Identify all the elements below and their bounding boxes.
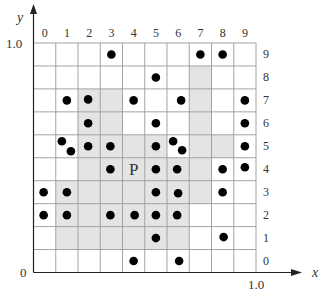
data-point <box>130 211 139 220</box>
shaded-cell <box>78 204 100 227</box>
data-point <box>218 165 227 174</box>
data-point <box>106 165 115 174</box>
data-point <box>177 96 186 105</box>
row-label: 4 <box>263 162 269 176</box>
shaded-cell <box>56 227 78 250</box>
column-label: 0 <box>42 26 48 40</box>
row-label: 5 <box>263 139 269 153</box>
grid-diagram: y x 1.0 1.0 0 01234567890123456789P <box>0 0 332 299</box>
column-label: 7 <box>197 26 203 40</box>
shaded-cell <box>100 89 122 112</box>
data-point <box>129 96 138 105</box>
data-point <box>169 137 178 146</box>
shaded-cell <box>78 181 100 204</box>
column-label: 1 <box>64 26 70 40</box>
shaded-cell <box>100 181 122 204</box>
data-point <box>241 119 250 128</box>
row-label: 7 <box>263 93 269 107</box>
shaded-cell <box>189 158 211 181</box>
data-point <box>152 234 161 243</box>
shaded-cell <box>189 135 211 158</box>
row-label: 1 <box>263 231 269 245</box>
y-axis-label: y <box>15 10 24 25</box>
column-label: 5 <box>153 26 159 40</box>
column-label: 2 <box>86 26 92 40</box>
row-label: 0 <box>263 254 269 268</box>
data-point <box>152 142 161 151</box>
y-axis-arrow-icon <box>30 4 37 14</box>
shaded-cell <box>167 227 189 250</box>
data-point <box>173 211 182 220</box>
data-point <box>129 257 138 266</box>
data-point <box>178 146 187 155</box>
point-p-label: P <box>129 160 138 179</box>
shaded-cell <box>78 158 100 181</box>
data-point <box>218 188 227 197</box>
shaded-cell <box>212 135 234 158</box>
origin-label: 0 <box>20 265 27 280</box>
data-point <box>173 165 182 174</box>
data-point <box>63 96 72 105</box>
column-label: 3 <box>108 26 114 40</box>
shaded-cell <box>100 227 122 250</box>
shaded-cell <box>189 181 211 204</box>
y-max-label: 1.0 <box>6 36 22 51</box>
shaded-cell <box>123 227 145 250</box>
data-point <box>39 188 48 197</box>
row-label: 2 <box>263 208 269 222</box>
shaded-cell <box>123 135 145 158</box>
data-point <box>152 211 161 220</box>
x-axis-label: x <box>311 265 319 280</box>
x-max-label: 1.0 <box>248 277 264 292</box>
data-point <box>241 163 250 172</box>
data-point <box>58 137 67 146</box>
data-point <box>106 211 115 220</box>
data-point <box>175 257 184 266</box>
data-point <box>152 165 161 174</box>
data-point <box>152 73 161 82</box>
data-point <box>196 50 205 59</box>
data-point <box>174 189 183 198</box>
data-point <box>39 211 48 220</box>
data-point <box>63 211 72 220</box>
shaded-cell <box>189 66 211 89</box>
row-label: 8 <box>263 70 269 84</box>
diagram-canvas: y x 1.0 1.0 0 01234567890123456789P <box>0 0 332 299</box>
row-label: 6 <box>263 116 269 130</box>
data-point <box>84 119 93 128</box>
row-label: 3 <box>263 185 269 199</box>
column-label: 6 <box>175 26 181 40</box>
shaded-cell <box>189 89 211 112</box>
column-label: 4 <box>131 26 137 40</box>
data-point <box>241 96 250 105</box>
shaded-cell <box>123 181 145 204</box>
shaded-cell <box>100 112 122 135</box>
data-point <box>106 142 115 151</box>
data-point <box>152 188 161 197</box>
row-label: 9 <box>263 47 269 61</box>
data-point <box>84 142 93 151</box>
x-axis-arrow-icon <box>291 269 302 276</box>
shaded-cell <box>189 112 211 135</box>
column-label: 9 <box>242 26 248 40</box>
data-point <box>218 50 227 59</box>
data-point <box>107 50 116 59</box>
column-label: 8 <box>220 26 226 40</box>
data-point <box>67 147 76 156</box>
data-point <box>63 188 72 197</box>
data-point <box>152 119 161 128</box>
data-point <box>84 95 93 104</box>
data-point <box>219 233 228 242</box>
shaded-cell <box>78 227 100 250</box>
data-point <box>241 142 250 151</box>
